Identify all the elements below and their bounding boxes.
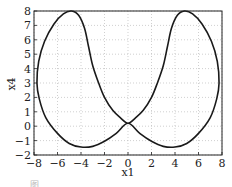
- y-tick-label: 3: [24, 77, 31, 90]
- x-axis-label: x1: [121, 166, 134, 179]
- y-tick-label: 8: [24, 5, 31, 18]
- y-tick-label: 2: [24, 91, 31, 104]
- phase-plot: −8−6−4−202468−2−1012345678 x1 x4: [0, 0, 232, 187]
- axis-ticks: −8−6−4−202468−2−1012345678: [15, 5, 226, 170]
- figure-caption: 图 …: [30, 178, 51, 187]
- y-tick-label: 7: [24, 19, 31, 32]
- y-tick-label: 1: [24, 106, 31, 119]
- y-tick-label: 0: [24, 120, 31, 133]
- grid-lines: [34, 11, 222, 155]
- y-axis-label: x4: [5, 77, 18, 90]
- y-tick-label: −1: [15, 135, 31, 148]
- x-tick-label: 8: [219, 157, 226, 170]
- y-tick-label: 5: [24, 48, 31, 61]
- y-tick-label: 4: [24, 63, 31, 76]
- x-tick-label: −2: [96, 157, 112, 170]
- y-tick-label: 6: [24, 34, 31, 47]
- x-tick-label: 2: [148, 157, 155, 170]
- x-tick-label: −6: [49, 157, 65, 170]
- y-tick-label: −2: [15, 149, 31, 162]
- x-tick-label: 6: [195, 157, 202, 170]
- trajectory-curve: [37, 11, 219, 147]
- x-tick-label: 4: [172, 157, 179, 170]
- x-tick-label: −4: [73, 157, 89, 170]
